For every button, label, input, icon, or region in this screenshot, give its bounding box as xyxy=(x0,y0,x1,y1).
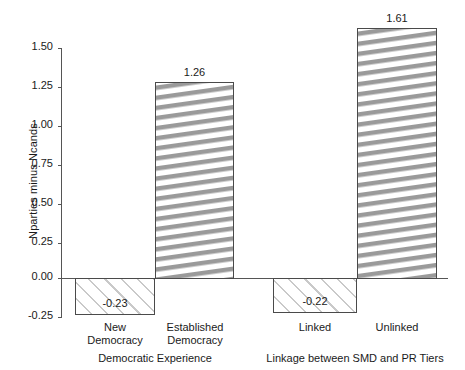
y-tick-mark xyxy=(58,243,62,244)
y-tick-mark xyxy=(58,204,62,205)
group-label-democratic-experience: Democratic Experience xyxy=(55,352,255,364)
value-label-established-democracy: 1.26 xyxy=(155,66,234,78)
y-tick-label: 0.50 xyxy=(32,196,53,208)
y-tick-mark xyxy=(58,317,62,318)
group-label-linkage: Linkage between SMD and PR Tiers xyxy=(245,352,465,364)
bar-unlinked[interactable] xyxy=(357,28,437,279)
bar-chart: Nparties minus Ncands 1.50 1.25 1.00 0.7… xyxy=(0,0,465,370)
category-label-unlinked: Unlinked xyxy=(345,321,449,334)
y-tick-label: -0.25 xyxy=(28,309,53,321)
y-tick-mark xyxy=(58,278,62,279)
y-tick-label: 0.00 xyxy=(32,270,53,282)
y-tick-mark xyxy=(58,126,62,127)
value-label-new-democracy: -0.23 xyxy=(75,297,155,309)
value-label-unlinked: 1.61 xyxy=(357,12,437,24)
y-tick-label: 1.25 xyxy=(32,79,53,91)
bar-established-democracy[interactable] xyxy=(155,82,234,279)
y-tick-mark xyxy=(58,48,62,49)
y-tick-label: 0.25 xyxy=(32,235,53,247)
y-tick-label: 1.00 xyxy=(32,118,53,130)
value-label-linked: -0.22 xyxy=(273,295,357,307)
y-tick-label: 0.75 xyxy=(32,157,53,169)
category-label-established-democracy: Established Democracy xyxy=(143,321,247,347)
y-tick-mark xyxy=(58,87,62,88)
y-axis-label: Nparties minus Ncands xyxy=(27,86,39,276)
y-tick-label: 1.50 xyxy=(32,40,53,52)
y-tick-mark xyxy=(58,165,62,166)
